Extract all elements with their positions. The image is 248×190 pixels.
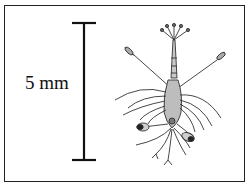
larva-drawing (115, 23, 226, 165)
scale-bar (72, 23, 96, 160)
scale-bar-label: 5 mm (25, 72, 69, 94)
antenna-fan (160, 23, 189, 40)
figure-illustration (0, 0, 248, 190)
